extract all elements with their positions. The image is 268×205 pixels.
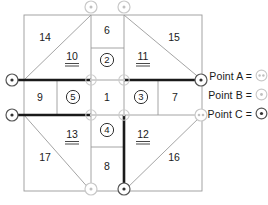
figure-container: 14 6 15 9 1 7 17 8 16 10 11 13 — [0, 0, 268, 205]
piece-label-16: 16 — [168, 151, 180, 163]
piece-label-2: 2 — [104, 54, 109, 65]
piece-label-4: 4 — [104, 124, 109, 135]
piece-label-14: 14 — [39, 31, 51, 43]
legend-row-point-a: Point A = — [198, 66, 268, 85]
point-b-marker-icon — [255, 88, 268, 101]
top-right-point-marker — [118, 1, 130, 13]
piece-label-8: 8 — [104, 160, 110, 172]
point-c-marker-icon — [255, 107, 268, 120]
piece-label-17: 17 — [39, 151, 51, 163]
point-a-marker-icon — [255, 69, 268, 82]
piece-label-13-group: 13 — [65, 128, 79, 144]
piece-label-10: 10 — [66, 50, 78, 62]
piece-label-6: 6 — [104, 24, 110, 36]
piece-label-3-group: 3 — [134, 90, 147, 103]
legend-row-point-c: Point C = — [198, 104, 268, 123]
piece-label-7: 7 — [172, 91, 178, 103]
piece-label-11: 11 — [138, 50, 149, 62]
bottom-left-point-marker — [85, 183, 97, 195]
piece-label-1: 1 — [104, 91, 110, 103]
left-upper-point-marker — [6, 74, 18, 86]
left-lower-point-marker — [6, 109, 18, 121]
piece-label-15: 15 — [168, 31, 180, 43]
legend-row-point-b: Point B = — [198, 85, 268, 104]
piece-label-13: 13 — [66, 128, 78, 140]
legend-label-point-c: Point C = — [208, 108, 252, 120]
piece-label-9: 9 — [37, 91, 43, 103]
piece-label-12: 12 — [137, 128, 149, 140]
legend: Point A = Point B = Point C = — [198, 66, 268, 123]
piece-label-5: 5 — [70, 91, 75, 102]
piece-label-2-group: 2 — [100, 53, 113, 66]
legend-label-point-b: Point B = — [208, 89, 252, 101]
legend-label-point-a: Point A = — [209, 70, 252, 82]
piece-label-11-group: 11 — [136, 50, 150, 66]
top-left-point-marker — [85, 1, 97, 13]
piece-label-12-group: 12 — [136, 128, 150, 144]
piece-label-4-group: 4 — [100, 123, 113, 136]
bottom-right-point-marker — [118, 183, 130, 195]
piece-label-3: 3 — [138, 91, 143, 102]
piece-label-10-group: 10 — [65, 50, 79, 66]
piece-label-5-group: 5 — [66, 90, 79, 103]
